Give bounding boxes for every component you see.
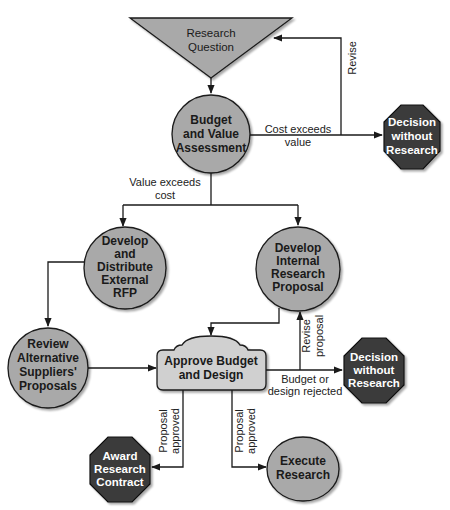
edge-label-rejected: design rejected	[268, 385, 343, 397]
label-line: Decision	[388, 116, 436, 128]
label-line: Decision	[350, 351, 398, 363]
edge-label-revise-proposal: proposal	[313, 315, 325, 357]
node-approve-budget-design: Approve Budget and Design	[157, 336, 266, 390]
label-line: Execute	[280, 454, 326, 468]
edge-rfp-to-review	[48, 262, 86, 326]
edge-revise-loop	[274, 38, 341, 135]
node-execute-research: Execute Research	[267, 437, 339, 501]
label-line: Proposals	[19, 379, 77, 393]
node-review-suppliers: Review Alternative Suppliers' Proposals	[8, 328, 88, 408]
label-line: Alternative	[17, 351, 79, 365]
node-award-research-contract: Award Research Contract	[90, 437, 150, 502]
edge-label-cost-exceeds: value	[285, 136, 311, 148]
edge-label-approved-left: Proposal	[157, 409, 169, 452]
node-budget-value-assessment: Budget and Value Assessment	[172, 95, 250, 173]
label-line: Research	[271, 267, 325, 281]
edge-internal-to-approve	[211, 308, 279, 335]
label-line: Internal	[276, 254, 319, 268]
label-line: without	[391, 130, 433, 142]
edge-label-value-exceeds: Value exceeds	[129, 176, 201, 188]
node-decision-without-research-2: Decision without Research	[344, 338, 404, 403]
label-line: Research	[94, 463, 146, 475]
label-line: Question	[188, 41, 234, 53]
label-line: and Design	[179, 368, 244, 382]
edge-label-value-exceeds: cost	[155, 189, 175, 201]
label-line: RFP	[113, 286, 137, 300]
label-line: Research	[186, 27, 235, 39]
label-line: Budget	[190, 113, 231, 127]
label-line: Research	[386, 144, 438, 156]
node-internal-proposal: Develop Internal Research Proposal	[256, 227, 340, 311]
edge-label-revise: Revise	[346, 41, 358, 75]
label-line: Approve Budget	[164, 354, 257, 368]
label-line: Proposal	[272, 280, 323, 294]
label-line: and Value	[183, 127, 239, 141]
label-line: Review	[27, 337, 69, 351]
label-line: Suppliers'	[19, 365, 77, 379]
label-line: Contract	[96, 476, 143, 488]
edge-label-cost-exceeds: Cost exceeds	[265, 123, 332, 135]
edge-label-approved-left: approved	[169, 408, 181, 454]
label-line: Research	[276, 468, 330, 482]
label-line: Develop	[275, 241, 322, 255]
edge-label-rejected: Budget or	[281, 373, 329, 385]
edge-label-revise-proposal: Revise	[300, 319, 312, 353]
node-research-question: Research Question	[130, 18, 292, 78]
label-line: without	[353, 364, 395, 376]
label-line: Distribute	[97, 260, 153, 274]
label-line: External	[101, 273, 148, 287]
label-line: Award	[103, 450, 138, 462]
edge-label-approved-right: approved	[245, 408, 257, 454]
label-line: and	[114, 247, 135, 261]
edge-label-approved-right: Proposal	[233, 409, 245, 452]
research-process-flowchart: Research Question Budget and Value Asses…	[0, 0, 450, 510]
label-line: Develop	[102, 234, 149, 248]
label-line: Assessment	[176, 141, 247, 155]
node-external-rfp: Develop and Distribute External RFP	[84, 227, 166, 309]
label-line: Research	[348, 377, 400, 389]
node-decision-without-research-1: Decision without Research	[384, 105, 440, 169]
